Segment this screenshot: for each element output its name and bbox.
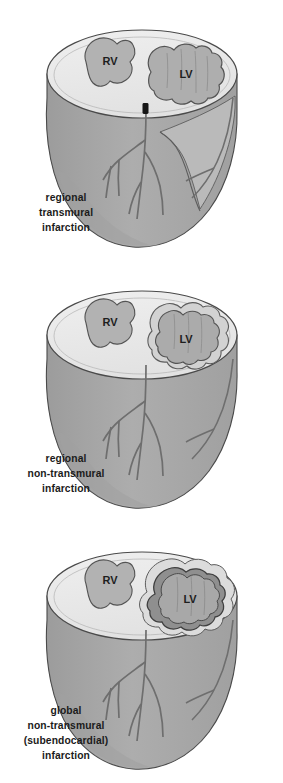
svg-text:(subendocardial): (subendocardial) <box>24 735 109 746</box>
rv-label: RV <box>102 55 118 67</box>
rv-label: RV <box>102 574 118 586</box>
coronary-occlusion-marker <box>143 103 149 114</box>
myocardial-infarction-figure: RV LV <box>0 0 283 783</box>
panel-global-subendocardial: RV LV g <box>0 522 283 783</box>
svg-text:infarction: infarction <box>42 750 90 761</box>
svg-text:global: global <box>51 705 82 716</box>
lv-label: LV <box>183 593 197 605</box>
svg-text:regional: regional <box>46 192 87 203</box>
svg-text:non-transmural: non-transmural <box>28 720 105 731</box>
lv-label: LV <box>179 333 193 345</box>
svg-text:regional: regional <box>46 453 87 464</box>
rv-label: RV <box>102 316 118 328</box>
svg-text:non-transmural: non-transmural <box>28 468 105 479</box>
panel-caption: regional transmural infarction <box>39 192 93 233</box>
lv-label: LV <box>179 68 193 80</box>
panel-regional-non-transmural: RV LV regional <box>0 261 283 522</box>
svg-text:transmural: transmural <box>39 207 93 218</box>
svg-text:infarction: infarction <box>42 222 90 233</box>
panel-regional-transmural: RV LV <box>0 0 283 261</box>
svg-text:infarction: infarction <box>42 483 90 494</box>
